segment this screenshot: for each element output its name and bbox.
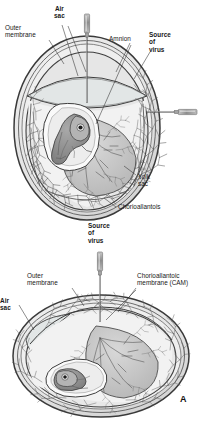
label-source-of-virus-top: Source of virus — [149, 31, 171, 53]
label-outer-membrane-bottom: Outer membrane — [27, 272, 58, 287]
egg-inoculation-illustration — [0, 0, 211, 422]
label-chorioallantois: Chorioallantois — [118, 203, 161, 210]
label-outer-membrane-top: Outer membrane — [5, 24, 36, 39]
label-source-of-virus-bottom: Source of virus — [88, 222, 110, 244]
label-amnion: Amnion — [109, 35, 131, 42]
panel-label-a: A — [180, 394, 187, 404]
figure-egg-inoculation-routes: Outer membrane Air sac Amnion Source of … — [0, 0, 211, 422]
label-air-sac-bottom: Air sac — [0, 297, 11, 312]
label-air-sac-top: Air sac — [54, 5, 65, 20]
label-chorioallantoic-membrane: Chorioallantoic membrane (CAM) — [137, 272, 188, 287]
label-yolk-sac: Yolk sac — [138, 173, 150, 188]
